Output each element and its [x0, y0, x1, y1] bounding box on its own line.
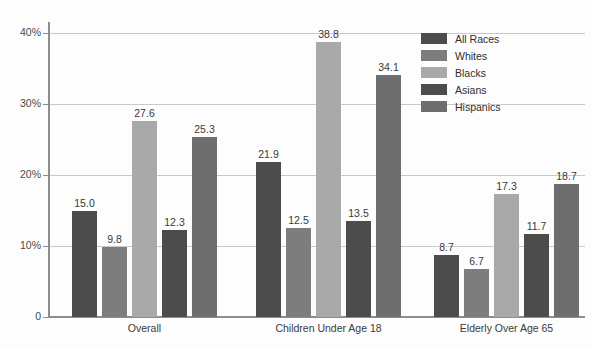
legend-label: All Races	[455, 33, 499, 45]
group-label: Elderly Over Age 65	[434, 322, 579, 334]
y-tick-0	[43, 317, 49, 318]
legend-item-all-races[interactable]: All Races	[421, 31, 551, 46]
group-label: Children Under Age 18	[256, 322, 401, 334]
y-tick-20	[43, 175, 49, 176]
y-tick-label-30: 30%	[20, 97, 41, 109]
bar-value-label: 12.5	[279, 214, 319, 226]
bar-value-label: 18.7	[547, 170, 587, 182]
bar-value-label: 34.1	[369, 61, 409, 73]
y-tick-label-0: 0	[35, 310, 41, 322]
bar[interactable]	[346, 221, 371, 317]
y-tick-label-20: 20%	[20, 168, 41, 180]
legend-label: Blacks	[455, 67, 486, 79]
bar[interactable]	[256, 162, 281, 317]
legend-label: Asians	[455, 84, 487, 96]
y-tick-label-10: 10%	[20, 239, 41, 251]
bar[interactable]	[434, 255, 459, 317]
legend-label: Whites	[455, 50, 487, 62]
bar[interactable]	[524, 234, 549, 317]
y-tick-label-40: 40%	[20, 26, 41, 38]
bar-chart: 010%20%30%40% 15.09.827.612.325.321.912.…	[0, 0, 591, 348]
bar-value-label: 9.8	[95, 233, 135, 245]
group-label: Overall	[72, 322, 217, 334]
bar-value-label: 13.5	[339, 207, 379, 219]
legend-swatch-icon	[421, 50, 447, 61]
bar[interactable]	[316, 42, 341, 317]
legend-swatch-icon	[421, 84, 447, 95]
bar-value-label: 21.9	[249, 148, 289, 160]
bar[interactable]	[554, 184, 579, 317]
legend-swatch-icon	[421, 33, 447, 44]
bar[interactable]	[286, 228, 311, 317]
bar-value-label: 8.7	[427, 241, 467, 253]
bar-value-label: 12.3	[155, 216, 195, 228]
legend-item-blacks[interactable]: Blacks	[421, 65, 551, 80]
legend-item-whites[interactable]: Whites	[421, 48, 551, 63]
bar-value-label: 25.3	[185, 123, 225, 135]
bar-value-label: 27.6	[125, 107, 165, 119]
legend: All RacesWhitesBlacksAsiansHispanics	[421, 31, 551, 116]
legend-label: Hispanics	[455, 101, 501, 113]
y-tick-40	[43, 33, 49, 34]
bar[interactable]	[72, 211, 97, 318]
bar-value-label: 6.7	[457, 255, 497, 267]
bar-value-label: 38.8	[309, 28, 349, 40]
y-tick-10	[43, 246, 49, 247]
y-tick-30	[43, 104, 49, 105]
y-axis-line	[48, 22, 50, 318]
bar[interactable]	[102, 247, 127, 317]
bar-value-label: 11.7	[517, 220, 557, 232]
legend-swatch-icon	[421, 67, 447, 78]
y-axis-labels: 010%20%30%40%	[0, 0, 41, 348]
bar[interactable]	[192, 137, 217, 317]
bar-value-label: 17.3	[487, 180, 527, 192]
legend-item-hispanics[interactable]: Hispanics	[421, 99, 551, 114]
bar[interactable]	[132, 121, 157, 317]
bar[interactable]	[162, 230, 187, 317]
legend-item-asians[interactable]: Asians	[421, 82, 551, 97]
bar-value-label: 15.0	[65, 197, 105, 209]
bar[interactable]	[464, 269, 489, 317]
legend-swatch-icon	[421, 101, 447, 112]
bar[interactable]	[376, 75, 401, 317]
bar[interactable]	[494, 194, 519, 317]
